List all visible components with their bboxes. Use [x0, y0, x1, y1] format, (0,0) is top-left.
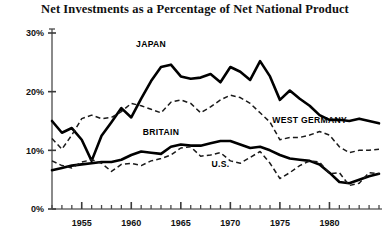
- chart-container: Net Investments as a Percentage of Net N…: [0, 0, 390, 240]
- x-tick-label: 1965: [171, 218, 191, 228]
- chart-axes: 0%10%20%30%195519601965197019751980: [26, 28, 382, 228]
- x-tick-label: 1975: [270, 218, 290, 228]
- series-line-japan: [52, 61, 379, 161]
- y-tick-label: 0%: [31, 204, 44, 214]
- x-tick-label: 1980: [319, 218, 339, 228]
- x-tick-label: 1970: [220, 218, 240, 228]
- y-tick-label: 20%: [26, 87, 44, 97]
- x-tick-label: 1955: [72, 218, 92, 228]
- series-label-japan: JAPAN: [136, 39, 166, 49]
- series-label-west-germany: WEST GERMANY: [272, 115, 347, 125]
- series-label-u-s: U.S.: [211, 159, 229, 169]
- y-tick-label: 30%: [26, 28, 44, 38]
- series-label-britain: BRITAIN: [143, 127, 179, 137]
- x-tick-label: 1960: [121, 218, 141, 228]
- y-tick-label: 10%: [26, 146, 44, 156]
- chart-plot-area: 0%10%20%30%195519601965197019751980 JAPA…: [0, 0, 390, 240]
